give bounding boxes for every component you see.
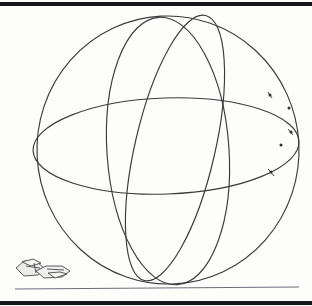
page-background (0, 0, 312, 306)
figure-canvas: Wireframe sphere with great circles (0, 0, 312, 306)
node-right-upper-marker (287, 106, 290, 109)
node-right-edge-marker (279, 143, 282, 146)
sphere-wireframe-drawing (0, 0, 312, 306)
